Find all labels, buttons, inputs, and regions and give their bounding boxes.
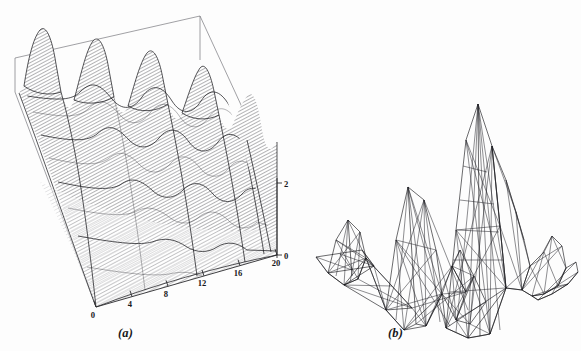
panel-b-svg [300,80,581,351]
x-axis-tick-label-20: 20 [272,258,281,268]
panel-b-wireframe [316,104,578,338]
panel-a-z-axis: 2 0 [277,178,288,261]
figure-root: 2 0 0 4 8 12 16 20 [0,0,581,351]
panel-b-caption: (b) [388,326,403,341]
x-axis-tick-label-12: 12 [198,278,207,288]
x-axis-tick-label-8: 8 [164,289,169,299]
panel-a-caption: (a) [118,326,133,341]
x-axis-tick-label-16: 16 [234,268,243,278]
surface-plot-panel-b [300,80,581,351]
panel-b-trough-left [344,258,412,310]
surface-plot-panel-a: 2 0 0 4 8 12 16 20 [0,0,310,351]
panel-b-ridge-left [328,220,374,285]
panel-b-spike-main [446,104,506,338]
x-axis-tick-label-4: 4 [128,299,133,309]
panel-b-right-shoulder [492,146,530,290]
z-axis-tick-label-2: 2 [284,179,288,189]
panel-a-svg: 2 0 0 4 8 12 16 20 [0,0,310,351]
x-axis-tick-label-0: 0 [91,310,95,320]
z-axis-tick-label-0: 0 [284,251,288,261]
panel-b-right-tail [506,236,578,300]
